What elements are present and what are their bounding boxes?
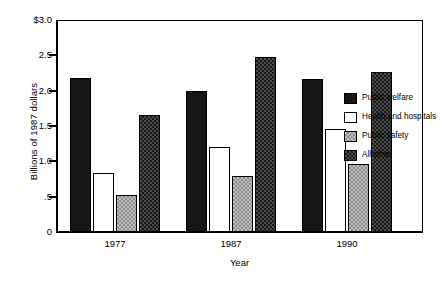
legend-swatch-public-safety — [344, 131, 357, 142]
y-axis-tick-labels: $3.02.52.01.51.0.50 — [8, 0, 52, 283]
legend-label: Health and hospitals — [362, 111, 436, 123]
legend-item: Health and hospitals — [344, 110, 422, 129]
x-axis-title: Year — [56, 257, 423, 268]
bar-chart-figure: Billions of 1987 dollars $3.02.52.01.51.… — [0, 0, 443, 283]
y-axis-tick-label: 1.5 — [12, 121, 52, 131]
bar-all-other-1987 — [255, 57, 276, 232]
chart-legend: Public welfareHealth and hospitalsPublic… — [344, 91, 422, 167]
legend-swatch-health-and-hospitals — [344, 112, 357, 123]
bar-health-and-hospitals-1990 — [325, 129, 346, 232]
bar-public-safety-1987 — [232, 176, 253, 232]
legend-label: All other — [362, 149, 392, 161]
x-axis-tick-label: 1977 — [85, 238, 145, 249]
y-axis-tick-label: 1.0 — [12, 156, 52, 166]
bar-health-and-hospitals-1977 — [93, 173, 114, 232]
x-axis-tick-label: 1990 — [317, 238, 377, 249]
y-axis-tick-label: 2.0 — [12, 86, 52, 96]
bar-public-safety-1990 — [348, 164, 369, 232]
y-axis-tick-label: 2.5 — [12, 50, 52, 60]
bar-public-welfare-1990 — [302, 79, 323, 232]
legend-label: Public safety — [362, 130, 408, 142]
legend-item: All other — [344, 148, 422, 167]
legend-item: Public safety — [344, 129, 422, 148]
bar-all-other-1977 — [139, 115, 160, 232]
legend-swatch-all-other — [344, 150, 357, 161]
bar-health-and-hospitals-1987 — [209, 147, 230, 232]
legend-label: Public welfare — [362, 92, 413, 104]
y-axis-tick-label: $3.0 — [12, 15, 52, 25]
y-axis-tick-label: .5 — [12, 192, 52, 202]
legend-item: Public welfare — [344, 91, 422, 110]
bar-public-welfare-1977 — [70, 78, 91, 232]
y-axis-tick-label: 0 — [12, 227, 52, 237]
bar-public-safety-1977 — [116, 195, 137, 232]
x-axis-tick-label: 1987 — [201, 238, 261, 249]
legend-swatch-public-welfare — [344, 93, 357, 104]
bar-public-welfare-1987 — [186, 91, 207, 232]
